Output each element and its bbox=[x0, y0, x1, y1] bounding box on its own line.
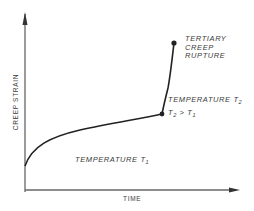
t1-symbol-subscript: 1 bbox=[192, 112, 196, 118]
x-axis-arrow-icon bbox=[229, 188, 240, 193]
y-axis-label: CREEP STRAIN bbox=[12, 74, 19, 130]
temperature-t1-prefix: TEMPERATURE T bbox=[75, 155, 146, 164]
temperature-t1-subscript: 1 bbox=[146, 159, 150, 165]
rupture-label-line3: RUPTURE bbox=[185, 52, 226, 61]
t2-greater-than-t1-label: T2 > T1 bbox=[168, 109, 196, 120]
x-axis-label: TIME bbox=[123, 195, 141, 202]
rupture-label: TERTIARY CREEP RUPTURE bbox=[185, 35, 226, 61]
temperature-t2-subscript: 2 bbox=[239, 99, 243, 105]
rupture-point-marker bbox=[171, 40, 176, 45]
temperature-t2-label: TEMPERATURE T2 bbox=[168, 96, 242, 107]
temperature-t2-prefix: TEMPERATURE T bbox=[168, 95, 239, 104]
inflection-point-marker bbox=[160, 112, 165, 117]
y-axis-arrow-icon bbox=[23, 12, 28, 25]
greater-than-operator: > bbox=[177, 108, 187, 117]
temperature-t1-label: TEMPERATURE T1 bbox=[75, 156, 149, 167]
